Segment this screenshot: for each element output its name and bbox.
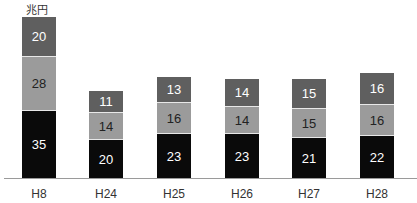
- x-tick-label: H24: [81, 187, 131, 201]
- bar-segment-middle: 16: [157, 102, 191, 133]
- bar-segment-bottom: 21: [292, 137, 326, 178]
- bar-segment-bottom: 22: [360, 135, 394, 178]
- bar-segment-bottom: 23: [225, 133, 259, 178]
- bar-segment-bottom: 35: [22, 110, 56, 178]
- bar-segment-middle: 28: [22, 56, 56, 110]
- bar-h25: 131623: [157, 77, 191, 178]
- bar-segment-bottom: 23: [157, 133, 191, 178]
- x-axis-line: [4, 178, 417, 179]
- bar-segment-top: 11: [89, 91, 123, 112]
- bar-segment-top: 16: [360, 73, 394, 104]
- unit-label: 兆円: [26, 1, 48, 17]
- x-tick-label: H25: [149, 187, 199, 201]
- bar-segment-top: 15: [292, 79, 326, 108]
- x-tick-label: H27: [284, 187, 334, 201]
- bar-h26: 141423: [225, 79, 259, 178]
- bar-segment-middle: 16: [360, 104, 394, 135]
- bar-h28: 161622: [360, 73, 394, 178]
- x-tick-label: H8: [14, 187, 64, 201]
- bar-segment-bottom: 20: [89, 139, 123, 178]
- bar-h24: 111420: [89, 91, 123, 178]
- bar-h27: 151521: [292, 79, 326, 178]
- bar-segment-middle: 14: [225, 106, 259, 133]
- x-tick-label: H28: [352, 187, 402, 201]
- bar-segment-top: 20: [22, 17, 56, 56]
- bar-h8: 202835: [22, 17, 56, 178]
- x-tick-label: H26: [217, 187, 267, 201]
- bar-segment-middle: 14: [89, 112, 123, 139]
- bar-segment-top: 13: [157, 77, 191, 102]
- bar-segment-top: 14: [225, 79, 259, 106]
- bar-segment-middle: 15: [292, 108, 326, 137]
